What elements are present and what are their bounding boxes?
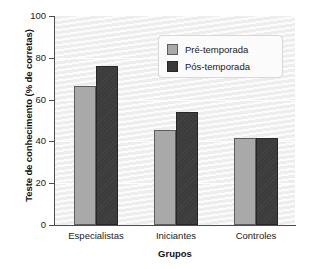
- legend-item-pre-temporada[interactable]: Pré-temporada: [167, 41, 282, 57]
- y-axis-line: [54, 16, 55, 226]
- bar-controles-pos[interactable]: [256, 138, 278, 225]
- legend-label-pos-temporada: Pós-temporada: [185, 61, 250, 72]
- y-tick-label-60: 60: [6, 95, 46, 105]
- legend-item-pos-temporada[interactable]: Pós-temporada: [167, 58, 282, 74]
- bar-iniciantes-pos[interactable]: [176, 112, 198, 225]
- legend-label-pre-temporada: Pré-temporada: [185, 44, 248, 55]
- bar-chart-figure: Teste de conhecimento (% de corretas) 10…: [0, 0, 314, 269]
- y-tick-mark-60: [49, 100, 55, 101]
- y-tick-label-0: 0: [6, 220, 46, 230]
- legend-swatch-pos-temporada: [167, 61, 178, 72]
- bar-controles-pre[interactable]: [234, 138, 256, 225]
- y-tick-mark-0: [49, 225, 55, 226]
- y-tick-mark-20: [49, 183, 55, 184]
- legend-swatch-pre-temporada: [167, 44, 178, 55]
- y-tick-label-80: 80: [6, 53, 46, 63]
- bar-especialistas-pre[interactable]: [74, 86, 96, 225]
- y-tick-mark-80: [49, 58, 55, 59]
- x-axis-line: [54, 225, 296, 226]
- y-tick-label-100: 100: [6, 11, 46, 21]
- x-category-label-controles: Controles: [201, 230, 311, 241]
- y-tick-mark-40: [49, 141, 55, 142]
- y-tick-mark-100: [49, 16, 55, 17]
- y-tick-label-40: 40: [6, 136, 46, 146]
- x-axis-title: Grupos: [55, 248, 295, 259]
- bar-especialistas-pos[interactable]: [96, 66, 118, 225]
- bar-iniciantes-pre[interactable]: [154, 130, 176, 225]
- chart-legend: Pré-temporada Pós-temporada: [158, 35, 283, 78]
- y-axis-title: Teste de conhecimento (% de corretas): [23, 6, 34, 226]
- y-tick-label-20: 20: [6, 178, 46, 188]
